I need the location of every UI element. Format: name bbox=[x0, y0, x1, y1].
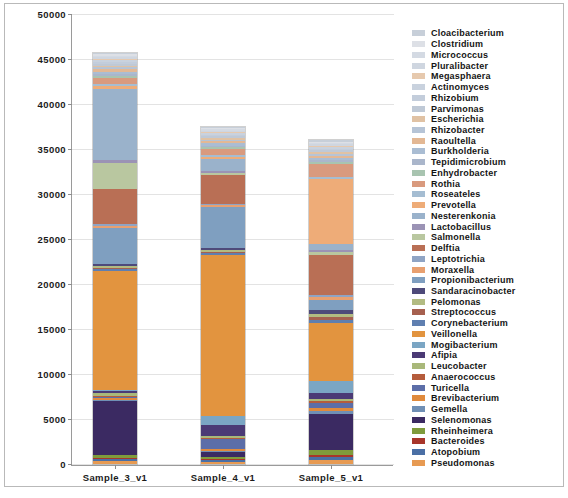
legend-item-Rhizobium[interactable]: Rhizobium bbox=[412, 92, 564, 103]
legend-swatch-icon bbox=[412, 73, 425, 79]
x-tick-label-Sample_3_v1: Sample_3_v1 bbox=[83, 472, 148, 483]
bar-segment-Mogibacterium[interactable] bbox=[201, 416, 245, 425]
legend-item-Selenomonas[interactable]: Selenomonas bbox=[412, 414, 564, 425]
bar-segment-Veillonella[interactable] bbox=[93, 271, 137, 390]
legend-item-Cloacibacterium[interactable]: Cloacibacterium bbox=[412, 28, 564, 39]
legend-item-Gemella[interactable]: Gemella bbox=[412, 404, 564, 415]
legend-label: Brevibacterium bbox=[431, 393, 499, 403]
legend-item-Micrococcus[interactable]: Micrococcus bbox=[412, 49, 564, 60]
legend-item-Pluralibacter[interactable]: Pluralibacter bbox=[412, 60, 564, 71]
legend-label: Roseateles bbox=[431, 189, 481, 199]
legend-swatch-icon bbox=[412, 277, 425, 283]
legend-swatch-icon bbox=[412, 234, 425, 240]
y-tick-mark bbox=[68, 284, 72, 285]
legend-swatch-icon bbox=[412, 106, 425, 112]
bar-segment-Veillonella[interactable] bbox=[201, 255, 245, 416]
bar-segment-Selenomonas[interactable] bbox=[93, 401, 137, 455]
legend-item-Leptotrichia[interactable]: Leptotrichia bbox=[412, 253, 564, 264]
legend-label: Mogibacterium bbox=[431, 340, 498, 350]
bar-segment-Pseudomonas[interactable] bbox=[201, 462, 245, 465]
legend-item-Pseudomonas[interactable]: Pseudomonas bbox=[412, 457, 564, 468]
legend-item-Megasphaera[interactable]: Megasphaera bbox=[412, 71, 564, 82]
legend-label: Parvimonas bbox=[431, 104, 484, 114]
legend-item-Turicella[interactable]: Turicella bbox=[412, 382, 564, 393]
legend-label: Micrococcus bbox=[431, 50, 488, 60]
bar-segment-Afipia[interactable] bbox=[201, 425, 245, 436]
bar-Sample_5_v1[interactable] bbox=[309, 140, 353, 464]
legend-swatch-icon bbox=[412, 385, 425, 391]
legend-item-Moraxella[interactable]: Moraxella bbox=[412, 264, 564, 275]
legend-label: Leptotrichia bbox=[431, 254, 485, 264]
legend-item-Enhydrobacter[interactable]: Enhydrobacter bbox=[412, 168, 564, 179]
legend-item-Bacteroides[interactable]: Bacteroides bbox=[412, 436, 564, 447]
bar-segment-Propionibacterium[interactable] bbox=[93, 228, 137, 264]
legend-item-Veillonella[interactable]: Veillonella bbox=[412, 329, 564, 340]
bar-segment-Delftia[interactable] bbox=[201, 175, 245, 203]
legend-swatch-icon bbox=[412, 331, 425, 337]
legend-label: Cloacibacterium bbox=[431, 28, 504, 38]
legend-item-Afipia[interactable]: Afipia bbox=[412, 350, 564, 361]
y-tick-mark bbox=[68, 194, 72, 195]
bar-segment-Mogibacterium[interactable] bbox=[309, 381, 353, 393]
bar-segment-Propionibacterium[interactable] bbox=[309, 300, 353, 310]
y-tick-mark bbox=[68, 104, 72, 105]
legend-item-Anaerococcus[interactable]: Anaerococcus bbox=[412, 372, 564, 383]
legend-item-Streptococcus[interactable]: Streptococcus bbox=[412, 307, 564, 318]
legend-swatch-icon bbox=[412, 288, 425, 294]
legend-label: Bacteroides bbox=[431, 436, 485, 446]
bar-segment-Prevotella[interactable] bbox=[309, 179, 353, 244]
legend-item-Clostridium[interactable]: Clostridium bbox=[412, 39, 564, 50]
y-tick-mark bbox=[68, 374, 72, 375]
legend-item-Roseateles[interactable]: Roseateles bbox=[412, 189, 564, 200]
y-tick-mark bbox=[68, 419, 72, 420]
legend-item-Corynebacterium[interactable]: Corynebacterium bbox=[412, 318, 564, 329]
legend-label: Delftia bbox=[431, 243, 460, 253]
legend-item-Raoultella[interactable]: Raoultella bbox=[412, 135, 564, 146]
bar-segment-Veillonella[interactable] bbox=[309, 323, 353, 381]
legend-item-Prevotella[interactable]: Prevotella bbox=[412, 200, 564, 211]
bar-segment-Delftia[interactable] bbox=[309, 255, 353, 295]
legend-item-Rothia[interactable]: Rothia bbox=[412, 178, 564, 189]
bar-segment-Nesterenkonia[interactable] bbox=[93, 89, 137, 161]
legend-item-Delftia[interactable]: Delftia bbox=[412, 243, 564, 254]
legend-item-Brevibacterium[interactable]: Brevibacterium bbox=[412, 393, 564, 404]
bar-segment-Selenomonas[interactable] bbox=[309, 414, 353, 450]
legend-item-Pelomonas[interactable]: Pelomonas bbox=[412, 296, 564, 307]
legend-label: Pluralibacter bbox=[431, 61, 488, 71]
legend-item-Mogibacterium[interactable]: Mogibacterium bbox=[412, 339, 564, 350]
legend-item-Rhizobacter[interactable]: Rhizobacter bbox=[412, 125, 564, 136]
bar-Sample_3_v1[interactable] bbox=[93, 53, 137, 464]
bar-segment-Salmonella[interactable] bbox=[93, 163, 137, 189]
legend-item-Sandaracinobacter[interactable]: Sandaracinobacter bbox=[412, 286, 564, 297]
legend-item-Propionibacterium[interactable]: Propionibacterium bbox=[412, 275, 564, 286]
legend: CloacibacteriumClostridiumMicrococcusPlu… bbox=[412, 28, 564, 468]
bar-segment-Propionibacterium[interactable] bbox=[201, 207, 245, 248]
legend-item-Burkholderia[interactable]: Burkholderia bbox=[412, 146, 564, 157]
legend-item-Actinomyces[interactable]: Actinomyces bbox=[412, 82, 564, 93]
legend-item-Parvimonas[interactable]: Parvimonas bbox=[412, 103, 564, 114]
legend-swatch-icon bbox=[412, 352, 425, 358]
x-tick-mark bbox=[223, 465, 224, 469]
bar-segment-Nesterenkonia[interactable] bbox=[201, 159, 245, 172]
bar-segment-Delftia[interactable] bbox=[93, 189, 137, 225]
legend-item-Leucobacter[interactable]: Leucobacter bbox=[412, 361, 564, 372]
legend-item-Escherichia[interactable]: Escherichia bbox=[412, 114, 564, 125]
legend-label: Tepidimicrobium bbox=[431, 157, 506, 167]
y-tick-label: 50000 bbox=[38, 9, 66, 20]
y-tick-label: 0 bbox=[60, 459, 66, 470]
bar-Sample_4_v1[interactable] bbox=[201, 127, 245, 465]
bar-segment-Rothia[interactable] bbox=[309, 164, 353, 176]
bar-segment-Pseudomonas[interactable] bbox=[309, 460, 353, 464]
legend-label: Anaerococcus bbox=[431, 372, 495, 382]
legend-item-Salmonella[interactable]: Salmonella bbox=[412, 232, 564, 243]
y-tick-label: 20000 bbox=[38, 279, 66, 290]
bar-segment-Pseudomonas[interactable] bbox=[93, 461, 137, 465]
legend-item-Tepidimicrobium[interactable]: Tepidimicrobium bbox=[412, 157, 564, 168]
bar-segment-Turicella[interactable] bbox=[201, 439, 245, 449]
legend-item-Atopobium[interactable]: Atopobium bbox=[412, 447, 564, 458]
legend-item-Lactobacillus[interactable]: Lactobacillus bbox=[412, 221, 564, 232]
legend-item-Nesterenkonia[interactable]: Nesterenkonia bbox=[412, 210, 564, 221]
legend-item-Rheinheimera[interactable]: Rheinheimera bbox=[412, 425, 564, 436]
legend-label: Atopobium bbox=[431, 447, 480, 457]
legend-swatch-icon bbox=[412, 52, 425, 58]
